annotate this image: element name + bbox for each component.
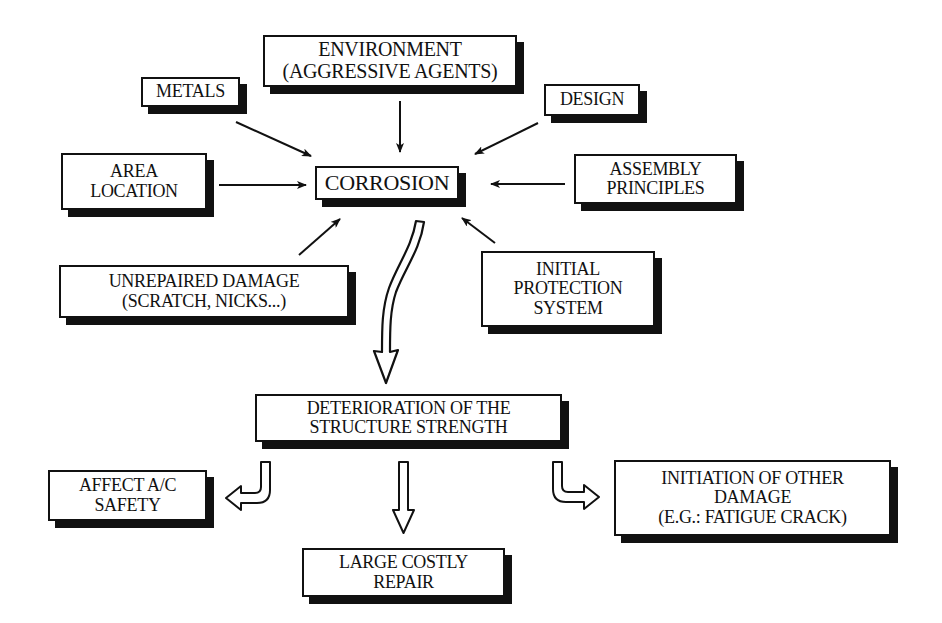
node-corrosion: CORROSION [315, 166, 459, 200]
node-unrepaired-damage-line-2: (SCRATCH, NICKS...) [122, 292, 286, 311]
node-assembly-principles: ASSEMBLY PRINCIPLES [574, 154, 737, 204]
node-area-location-line-2: LOCATION [90, 182, 178, 201]
node-environment-line-2: (AGGRESSIVE AGENTS) [283, 61, 498, 83]
node-design: DESIGN [544, 84, 640, 116]
node-design-line-1: DESIGN [560, 90, 624, 109]
node-costly-repair-line-1: LARGE COSTLY [339, 553, 468, 572]
node-corrosion-label: CORROSION [325, 171, 449, 195]
hollow-bent-arrow-right-icon [553, 462, 599, 509]
node-affect-safety-line-1: AFFECT A/C [79, 476, 176, 495]
node-environment: ENVIRONMENT (AGGRESSIVE AGENTS) [263, 35, 517, 87]
arrow-metals-to-corrosion [236, 122, 311, 156]
node-costly-repair: LARGE COSTLY REPAIR [302, 548, 505, 597]
arrow-unrepaired-to-corrosion [299, 219, 340, 255]
node-unrepaired-damage: UNREPAIRED DAMAGE (SCRATCH, NICKS...) [59, 265, 349, 318]
node-metals-line-1: METALS [156, 82, 225, 101]
hollow-bent-arrow-left-icon [226, 462, 270, 510]
node-costly-repair-line-2: REPAIR [373, 573, 434, 592]
node-initial-protection: INITIAL PROTECTION SYSTEM [481, 251, 655, 327]
node-deterioration: DETERIORATION OF THE STRUCTURE STRENGTH [255, 394, 562, 442]
node-initial-protection-line-3: SYSTEM [533, 299, 602, 318]
node-initial-protection-line-2: PROTECTION [514, 279, 623, 298]
node-initial-protection-line-1: INITIAL [536, 260, 600, 279]
node-environment-line-1: ENVIRONMENT [318, 39, 461, 61]
node-assembly-principles-line-2: PRINCIPLES [606, 179, 704, 198]
node-deterioration-line-1: DETERIORATION OF THE [307, 399, 511, 418]
node-affect-safety-line-2: SAFETY [94, 496, 160, 515]
node-other-damage: INITIATION OF OTHER DAMAGE (E.G.: FATIGU… [614, 460, 891, 536]
hollow-arrow-down-icon [393, 462, 414, 533]
node-other-damage-line-1: INITIATION OF OTHER [661, 469, 843, 488]
node-other-damage-line-3: (E.G.: FATIGUE CRACK) [658, 508, 846, 527]
hollow-curved-arrow-icon [374, 221, 424, 383]
node-affect-safety: AFFECT A/C SAFETY [48, 470, 207, 521]
node-assembly-principles-line-1: ASSEMBLY [610, 160, 702, 179]
node-other-damage-line-2: DAMAGE [714, 488, 791, 507]
node-unrepaired-damage-line-1: UNREPAIRED DAMAGE [109, 272, 300, 291]
node-area-location: AREA LOCATION [61, 153, 207, 210]
node-area-location-line-1: AREA [110, 162, 158, 181]
arrow-protection-to-corrosion [462, 218, 495, 243]
node-metals: METALS [141, 77, 240, 107]
node-deterioration-line-2: STRUCTURE STRENGTH [309, 418, 507, 437]
arrow-design-to-corrosion [475, 123, 538, 154]
